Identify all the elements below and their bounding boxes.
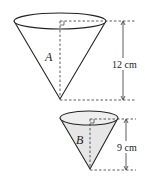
cone-a-label: A xyxy=(44,50,53,64)
cone-a-height: 12 cm xyxy=(112,59,137,70)
cones-diagram: A 12 cm B 9 cm xyxy=(0,0,145,186)
cone-a: A 12 cm xyxy=(14,13,139,100)
cone-b: B 9 cm xyxy=(60,111,142,170)
cone-b-label: B xyxy=(76,133,84,147)
cone-b-height: 9 cm xyxy=(117,142,137,153)
